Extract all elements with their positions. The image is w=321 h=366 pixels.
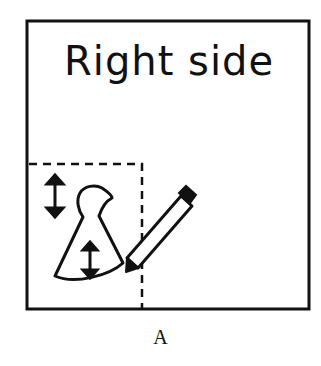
inner-arrow-icon <box>83 242 97 278</box>
pencil-icon <box>126 186 196 272</box>
diagram: Right side A <box>0 0 321 366</box>
figure-caption: A <box>0 326 321 349</box>
vertical-arrow-icon <box>47 175 63 217</box>
dashed-region <box>29 164 142 309</box>
diagram-title: Right side <box>64 38 274 84</box>
